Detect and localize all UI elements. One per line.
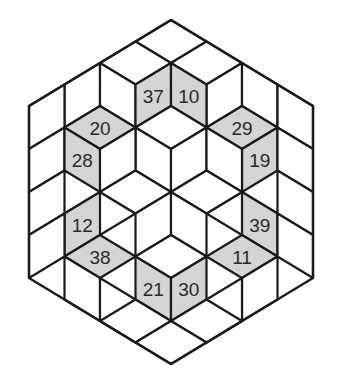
rhombus-number-label: 29: [231, 118, 252, 139]
rhombus-number-label: 11: [232, 247, 252, 268]
rhombus-number-label: 12: [72, 215, 93, 236]
rhombus-number-label: 30: [178, 279, 199, 300]
rhombus-number-label: 19: [249, 150, 270, 171]
rhombus-number-label: 28: [72, 150, 93, 171]
rhombus-number-label: 20: [89, 118, 110, 139]
rhombus-number-label: 10: [178, 86, 199, 107]
rhombus-number-label: 21: [143, 279, 164, 300]
rhombus-number-label: 38: [89, 247, 110, 268]
rhombus-tiles: [29, 20, 313, 364]
rhombus-number-label: 39: [249, 215, 270, 236]
rhombus-number-label: 37: [143, 86, 164, 107]
rhombus-puzzle-diagram: 371020292819123938112130: [0, 0, 341, 391]
